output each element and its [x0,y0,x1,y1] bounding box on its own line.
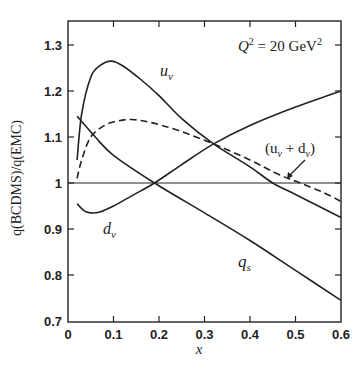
label-u-v: uv [160,62,173,82]
x-tick-label: 0.5 [286,327,304,342]
chart: 00.10.20.30.40.50.60.70.80.911.11.21.3 Q… [0,0,362,369]
x-tick-label: 0 [64,327,71,342]
x-tick-label: 0.1 [104,327,122,342]
x-tick-label: 0.3 [195,327,213,342]
x-axis-label: x [195,341,203,357]
q2-annotation: Q2 = 20 GeV2 [238,36,322,54]
curves [77,61,341,300]
curve-u-v-d-v [77,119,341,201]
y-tick-label: 1 [55,176,62,191]
axes-box [68,21,341,322]
label-pointer-arrow [289,160,305,176]
y-tick-label: 0.7 [44,314,62,329]
tick-labels: 00.10.20.30.40.50.60.70.80.911.11.21.3 [44,38,350,342]
y-tick-label: 1.3 [44,38,62,53]
x-tick-label: 0.4 [241,327,260,342]
y-tick-label: 0.9 [44,222,62,237]
y-tick-label: 0.8 [44,268,62,283]
plot-frame [68,21,341,322]
axis-ticks [68,21,341,322]
y-axis-label: q(BCDMS)/q(EMC) [9,120,25,236]
y-tick-label: 1.1 [44,130,62,145]
label-uv-plus-dv: (uv + dv) [265,140,315,159]
label-q-s: qs [238,252,251,273]
x-tick-label: 0.6 [332,327,350,342]
y-tick-label: 1.2 [44,84,62,99]
x-tick-label: 0.2 [150,327,168,342]
label-d-v: dv [103,220,116,240]
